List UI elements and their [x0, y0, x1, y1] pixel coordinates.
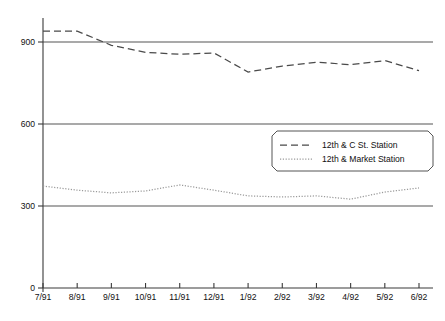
x-axis: 7/918/919/9110/9111/9112/911/922/923/924…	[35, 283, 433, 302]
x-tick-label-2: 9/91	[103, 292, 120, 302]
legend-label-1: 12th & Market Station	[322, 154, 405, 164]
x-tick-label-11: 6/92	[411, 292, 428, 302]
y-tick-label-300: 300	[21, 201, 36, 211]
line-chart: 900 600 300 0 7/918/919/9110/9111/9112/9…	[0, 0, 445, 321]
x-tick-labels: 7/918/919/9110/9111/9112/911/922/923/924…	[35, 292, 428, 302]
data-series	[43, 31, 419, 199]
y-tick-label-900: 900	[21, 37, 36, 47]
chart-svg: 900 600 300 0 7/918/919/9110/9111/9112/9…	[0, 0, 445, 321]
x-tick-label-10: 5/92	[376, 292, 393, 302]
x-tick-label-9: 4/92	[342, 292, 359, 302]
y-tick-label-600: 600	[21, 119, 36, 129]
x-tick-label-8: 3/92	[308, 292, 325, 302]
x-tick-label-3: 10/91	[135, 292, 157, 302]
legend[interactable]: 12th & C St. Station 12th & Market Stati…	[272, 131, 433, 171]
x-tick-label-7: 2/92	[274, 292, 291, 302]
legend-box	[272, 131, 433, 171]
x-tick-label-0: 7/91	[35, 292, 52, 302]
series-line-12th-and-market	[43, 185, 419, 199]
x-tick-label-6: 1/92	[240, 292, 257, 302]
x-tick-label-5: 12/91	[203, 292, 225, 302]
series-line-12th-and-c-st	[43, 31, 419, 72]
legend-label-0: 12th & C St. Station	[322, 140, 398, 150]
x-tick-label-1: 8/91	[69, 292, 86, 302]
x-tick-label-4: 11/91	[169, 292, 190, 302]
x-ticks	[43, 283, 419, 288]
y-axis: 900 600 300 0	[21, 18, 43, 293]
